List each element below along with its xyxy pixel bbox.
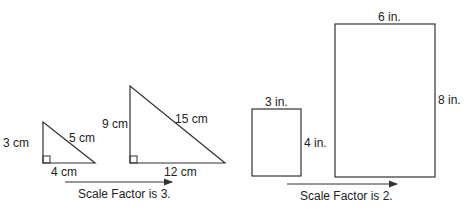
large-rectangle-width-label: 6 in. bbox=[378, 11, 401, 23]
small-rectangle-width-label: 3 in. bbox=[265, 96, 288, 108]
large-triangle-horizontal-label: 12 cm bbox=[164, 166, 197, 178]
small-triangle-horizontal-label: 4 cm bbox=[51, 166, 77, 178]
right-angle-marker bbox=[130, 156, 137, 163]
small-rectangle bbox=[252, 109, 301, 176]
large-rectangle-height-label: 8 in. bbox=[438, 94, 461, 106]
right-angle-marker bbox=[43, 156, 50, 163]
large-triangle-hypotenuse-label: 15 cm bbox=[175, 113, 208, 125]
scale-factor-caption-1: Scale Factor is 3. bbox=[78, 188, 171, 200]
large-triangle-vertical-label: 9 cm bbox=[102, 118, 128, 130]
large-rectangle bbox=[335, 24, 435, 177]
scale-factor-caption-2: Scale Factor is 2. bbox=[300, 190, 393, 202]
small-triangle-vertical-label: 3 cm bbox=[3, 137, 29, 149]
small-rectangle-height-label: 4 in. bbox=[304, 137, 327, 149]
small-triangle-hypotenuse-label: 5 cm bbox=[69, 132, 95, 144]
